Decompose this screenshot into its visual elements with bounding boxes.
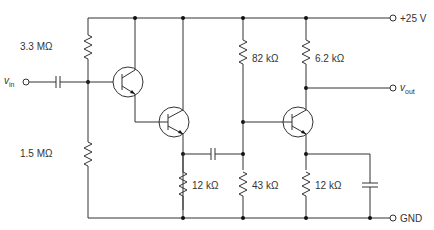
supply-terminal (390, 15, 396, 21)
r4-label: 82 kΩ (252, 53, 279, 64)
r6-label: 6.2 kΩ (315, 53, 345, 64)
transistor-q1 (113, 67, 143, 97)
r1-label: 3.3 MΩ (20, 41, 53, 52)
capacitor-couple (183, 148, 243, 160)
r5-label: 43 kΩ (252, 180, 279, 191)
supply-label: +25 V (400, 13, 427, 24)
resistor-r2 (84, 82, 92, 218)
input-label: vin (4, 75, 15, 88)
ground-label: GND (400, 213, 422, 224)
r2-label: 1.5 MΩ (20, 148, 53, 159)
ground-terminal (390, 215, 396, 221)
capacitor-in (29, 76, 113, 88)
output-label: vout (400, 82, 415, 95)
resistor-r6 (302, 18, 310, 88)
r3-label: 12 kΩ (192, 180, 219, 191)
output-terminal (390, 85, 396, 91)
resistor-r1 (84, 18, 92, 82)
resistor-r3 (179, 172, 187, 196)
r7-label: 12 kΩ (315, 180, 342, 191)
circuit-diagram: +25 V GND 3.3 MΩ 1.5 MΩ vin 12 kΩ 82 kΩ … (0, 0, 434, 230)
input-terminal (23, 79, 29, 85)
